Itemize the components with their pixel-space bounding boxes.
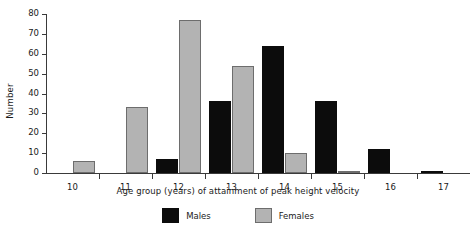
y-axis-tick-label: 40 bbox=[17, 88, 39, 99]
legend-item-females: Females bbox=[255, 208, 314, 223]
bar-females-age-14 bbox=[285, 153, 307, 173]
legend-item-males: Males bbox=[162, 208, 211, 223]
y-axis-tick: 0 bbox=[42, 173, 46, 174]
y-axis-tick-label: 70 bbox=[17, 28, 39, 39]
x-axis-label: Age group (years) of attainment of peak … bbox=[0, 186, 476, 196]
bar-females-age-11 bbox=[126, 107, 148, 173]
bar-males-age-15 bbox=[315, 101, 337, 173]
bar-females-age-10 bbox=[73, 161, 95, 173]
y-axis-tick-label: 0 bbox=[17, 167, 39, 178]
bar-males-age-13 bbox=[209, 101, 231, 173]
y-axis-label: Number bbox=[5, 56, 15, 146]
y-axis-tick: 80 bbox=[42, 14, 46, 15]
y-axis-tick-label: 10 bbox=[17, 147, 39, 158]
plot-area: 01020304050607080 1011121314151617 bbox=[46, 14, 470, 174]
chart-legend: Males Females bbox=[0, 208, 476, 223]
y-axis-spine bbox=[46, 14, 47, 174]
y-axis-tick-label: 50 bbox=[17, 68, 39, 79]
x-axis-tick bbox=[311, 174, 312, 179]
legend-label-females: Females bbox=[279, 211, 314, 221]
y-axis-tick-label: 60 bbox=[17, 48, 39, 59]
y-axis-tick: 40 bbox=[42, 94, 46, 95]
x-axis-tick bbox=[152, 174, 153, 179]
legend-swatch-females-icon bbox=[255, 208, 272, 223]
x-axis-tick bbox=[99, 174, 100, 179]
x-axis-tick bbox=[364, 174, 365, 179]
y-axis-tick-label: 30 bbox=[17, 107, 39, 118]
bar-males-age-16 bbox=[368, 149, 390, 173]
bar-females-age-12 bbox=[179, 20, 201, 173]
bar-females-age-13 bbox=[232, 66, 254, 173]
x-axis-tick bbox=[205, 174, 206, 179]
y-axis-tick-label: 80 bbox=[17, 8, 39, 19]
y-axis-tick: 60 bbox=[42, 54, 46, 55]
legend-swatch-males-icon bbox=[162, 208, 179, 223]
y-axis-tick-label: 20 bbox=[17, 127, 39, 138]
bar-males-age-17 bbox=[421, 171, 443, 173]
legend-label-males: Males bbox=[186, 211, 211, 221]
bar-chart-figure: Number 01020304050607080 101112131415161… bbox=[0, 0, 476, 240]
y-axis-tick: 10 bbox=[42, 153, 46, 154]
y-axis-tick: 70 bbox=[42, 34, 46, 35]
x-axis-tick bbox=[417, 174, 418, 179]
y-axis-tick: 50 bbox=[42, 74, 46, 75]
y-axis-tick: 20 bbox=[42, 133, 46, 134]
y-axis-tick: 30 bbox=[42, 113, 46, 114]
bar-males-age-12 bbox=[156, 159, 178, 173]
bar-males-age-14 bbox=[262, 46, 284, 173]
x-axis-tick bbox=[258, 174, 259, 179]
bar-females-age-15 bbox=[338, 171, 360, 173]
